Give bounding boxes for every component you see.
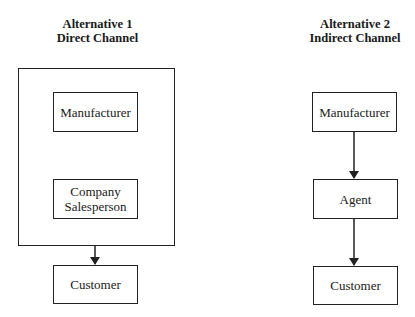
connector-arrows (0, 0, 415, 317)
